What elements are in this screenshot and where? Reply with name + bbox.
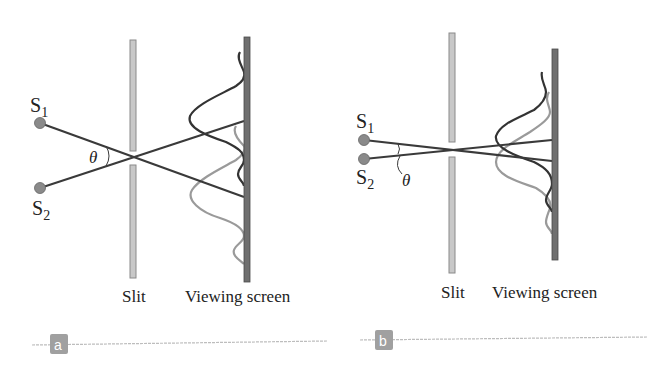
viewing-screen xyxy=(552,49,558,260)
source-s1-label: S1 xyxy=(356,110,374,136)
source-s2 xyxy=(35,183,46,194)
slit-barrier-upper xyxy=(449,33,455,142)
source-s2-label: S2 xyxy=(356,166,374,192)
slit-barrier-lower xyxy=(449,157,455,273)
slit-barrier-lower xyxy=(130,165,136,278)
panel-b-badge-label: b xyxy=(379,333,387,349)
diffraction-pattern-s1 xyxy=(190,52,245,186)
two-source-diffraction-figure: S1 S2 θ Slit Viewing screen a S1 S2 θ xyxy=(0,0,660,372)
panel-a-badge-label: a xyxy=(54,337,62,353)
slit-label: Slit xyxy=(122,287,146,306)
source-s2 xyxy=(359,154,370,165)
viewing-screen-label: Viewing screen xyxy=(185,287,291,306)
ray-s1 xyxy=(40,123,244,197)
panel-b-rule xyxy=(360,337,648,340)
diffraction-pattern-s2 xyxy=(496,92,552,234)
panel-a: S1 S2 θ Slit Viewing screen a xyxy=(30,37,328,354)
viewing-screen-label: Viewing screen xyxy=(492,283,598,302)
angle-theta-label: θ xyxy=(89,148,97,167)
angle-arc xyxy=(398,144,400,154)
source-s1-label: S1 xyxy=(30,94,48,120)
viewing-screen xyxy=(244,37,250,282)
panel-a-rule xyxy=(32,341,328,345)
source-s1 xyxy=(359,135,370,146)
slit-barrier-upper xyxy=(130,40,136,151)
angle-theta-label: θ xyxy=(402,171,410,190)
ray-s2 xyxy=(40,121,244,188)
slit-label: Slit xyxy=(441,283,465,302)
panel-b: S1 S2 θ Slit Viewing screen b xyxy=(356,33,648,350)
source-s2-label: S2 xyxy=(32,197,50,223)
